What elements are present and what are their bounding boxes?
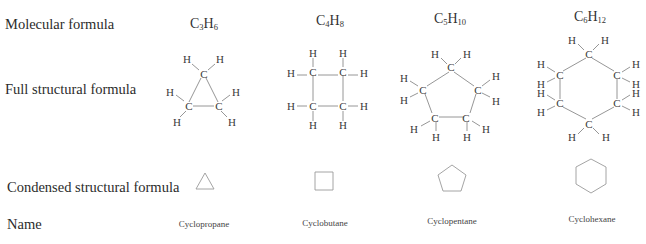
square-ring-icon: [315, 172, 333, 190]
compound-name-cyclohexane: Cyclohexane: [569, 214, 616, 224]
condensed-structures: [0, 0, 646, 244]
pentagon-ring-icon: [438, 165, 466, 191]
compound-name-cyclopentane: Cyclopentane: [427, 216, 476, 226]
compound-name-cyclobutane: Cyclobutane: [302, 218, 348, 228]
triangle-ring-icon: [196, 173, 214, 189]
hexagon-ring-icon: [576, 159, 606, 193]
compound-name-cyclopropane: Cyclopropane: [179, 219, 229, 229]
